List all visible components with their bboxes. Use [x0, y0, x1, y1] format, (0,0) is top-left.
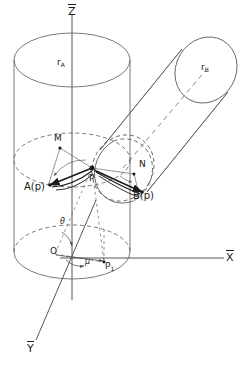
axis-x-label: X [226, 250, 234, 263]
vector-a-label: A(p) [24, 182, 45, 192]
angle-theta-label: θ [60, 218, 65, 226]
axis-y-line [36, 200, 96, 340]
axis-z-label: Z [68, 4, 76, 17]
point-n-label: N [139, 160, 146, 169]
radius-a-label: rA [57, 58, 65, 68]
point-n-dot [133, 173, 136, 176]
point-p-label: P [89, 174, 94, 183]
projection-construction [55, 168, 104, 262]
vector-b-label: B(p) [133, 191, 154, 201]
point-p-dot [90, 166, 95, 171]
vector-a-tip-dot [48, 183, 52, 187]
axis-y-label: Y [27, 341, 34, 354]
point-m-dot [58, 146, 61, 149]
radius-b-label: rB [201, 63, 209, 73]
angle-mu-label: μ [85, 258, 90, 266]
vector-a-arrow [50, 168, 92, 190]
point-p1-label: P1 [105, 262, 114, 272]
point-origin-label: O [50, 247, 57, 256]
cylinder-b-body [80, 26, 248, 213]
point-m-label: M [54, 134, 62, 143]
origin-to-p1-vector [56, 232, 103, 266]
cylinder-intersection-diagram: Z X Y rA rB M N P O P1 A(p) B(p) θ μ [0, 0, 248, 370]
